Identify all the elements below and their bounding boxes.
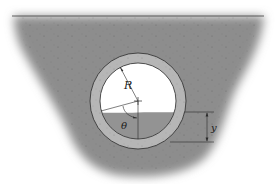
pipe-diagram: R θ y	[0, 0, 279, 184]
angle-label: θ	[121, 120, 127, 131]
radius-label: R	[123, 79, 132, 92]
depth-label: y	[210, 122, 217, 133]
